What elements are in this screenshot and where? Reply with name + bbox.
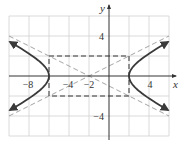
x-tick-label-neg8: −8 [23,79,34,90]
y-tick-label-neg4: −4 [93,111,104,122]
y-tick-label-4: 4 [99,31,104,42]
x-tick-label-neg2: −2 [84,79,95,90]
x-tick-label-4: 4 [148,79,153,90]
y-axis-label: y [99,2,105,14]
x-axis-label: x [172,78,178,90]
x-tick-label-neg4: −4 [63,79,74,90]
hyperbola-graph: −8 −4 −2 4 4 −4 x y [0,0,183,142]
